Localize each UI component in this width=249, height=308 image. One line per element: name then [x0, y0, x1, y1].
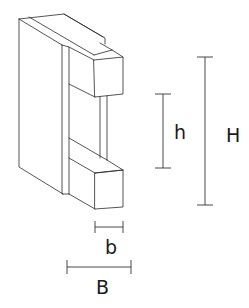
top-ledge	[64, 14, 103, 37]
lower-flange-top-back	[107, 160, 123, 170]
h-label: h	[174, 121, 186, 143]
upper-flange-bottom-slope	[69, 84, 95, 97]
web-left-edge	[62, 45, 69, 194]
beam-3d-shape	[19, 14, 123, 209]
web-right-edge	[62, 45, 69, 194]
H-label: H	[226, 124, 240, 146]
top-outer-slope	[19, 19, 62, 45]
upper-flange-top-edge	[94, 50, 112, 55]
b-label: b	[105, 236, 117, 258]
B-label: B	[96, 276, 109, 298]
top-inner-ridge	[29, 17, 94, 55]
dimension-H: H	[197, 57, 240, 205]
i-beam-diagram: h H b B	[0, 0, 249, 308]
upper-flange-front-face	[94, 57, 123, 97]
upper-flange-top-right	[112, 50, 123, 57]
lower-flange-top-slope	[69, 138, 107, 160]
top-ledge-lower	[100, 43, 112, 50]
dimension-B: B	[67, 260, 131, 298]
lower-flange-front-face	[95, 170, 123, 209]
lower-flange-bottom-slope	[69, 194, 95, 209]
dimension-h: h	[155, 94, 186, 168]
web-top-slope	[69, 47, 94, 60]
dimension-b: b	[95, 221, 123, 258]
back-plate-left-edge	[19, 19, 63, 194]
lower-flange-mid-slope	[69, 158, 95, 173]
